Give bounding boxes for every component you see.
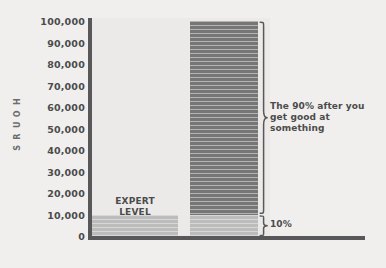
y-axis-tick-labels: 100,00090,00080,00070,00060,00050,00040,… (0, 0, 85, 268)
annotation-ten-percent: 10% (270, 219, 330, 229)
expert-level-label-line2: LEVEL (92, 207, 178, 218)
y-axis-tick-80000: 80,000 (0, 59, 85, 70)
expert-level-label-line1: EXPERT (92, 196, 178, 207)
bar-mastery-lower-segment (190, 215, 258, 237)
brace-ten-percent-icon (259, 215, 268, 237)
expert-level-label: EXPERT LEVEL (92, 196, 178, 217)
bar-mastery-upper-segment (190, 21, 258, 215)
y-axis-tick-40000: 40,000 (0, 145, 85, 156)
y-axis-tick-20000: 20,000 (0, 188, 85, 199)
y-axis-tick-0: 0 (0, 231, 85, 242)
y-axis-tick-30000: 30,000 (0, 166, 85, 177)
y-axis-tick-50000: 50,000 (0, 123, 85, 134)
bar-expert-level (92, 215, 178, 237)
y-axis-tick-90000: 90,000 (0, 37, 85, 48)
annotation-ninety-percent: The 90% after you get good at something (270, 101, 374, 133)
x-axis-line (88, 236, 365, 240)
y-axis-tick-10000: 10,000 (0, 209, 85, 220)
bar-chart: HOURS 100,00090,00080,00070,00060,00050,… (0, 0, 386, 268)
y-axis-tick-100000: 100,000 (0, 16, 85, 27)
y-axis-tick-60000: 60,000 (0, 102, 85, 113)
brace-ninety-percent-icon (259, 21, 268, 215)
y-axis-tick-70000: 70,000 (0, 80, 85, 91)
